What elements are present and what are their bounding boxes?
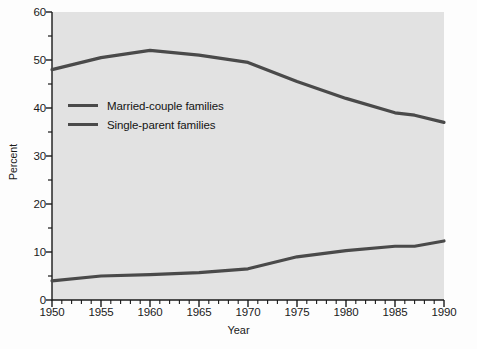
y-tick-label: 10	[16, 246, 46, 258]
y-tick-label: 40	[16, 102, 46, 114]
chart-figure: 0102030405060 19501955196019651970197519…	[0, 0, 477, 349]
x-axis-title: Year	[0, 324, 477, 336]
y-tick-label: 0	[16, 294, 46, 306]
legend-swatch-icon	[68, 104, 98, 108]
x-axis-tick-labels: 195019551960196519701975198019851990	[0, 306, 477, 326]
series-lines	[52, 50, 444, 280]
y-axis-title: Percent	[7, 132, 19, 192]
x-tick-label: 1990	[414, 306, 474, 318]
legend-item-single-parent-families: Single-parent families	[68, 115, 224, 134]
chart-canvas	[0, 0, 477, 349]
legend-label: Married-couple families	[107, 100, 224, 112]
y-tick-label: 30	[16, 150, 46, 162]
legend-swatch-icon	[68, 123, 98, 127]
y-tick-label: 50	[16, 54, 46, 66]
chart-legend: Married-couple families Single-parent fa…	[68, 96, 224, 134]
y-tick-label: 60	[16, 6, 46, 18]
legend-item-married-couple-families: Married-couple families	[68, 96, 224, 115]
legend-label: Single-parent families	[107, 119, 215, 131]
y-tick-label: 20	[16, 198, 46, 210]
